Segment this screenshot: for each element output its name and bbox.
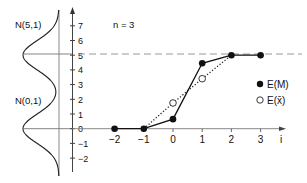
ex-point xyxy=(199,75,206,82)
em-point xyxy=(228,52,235,59)
x-tick-label: 2 xyxy=(229,134,235,145)
legend-em-label: E(M) xyxy=(267,79,289,90)
y-axis-arrow xyxy=(70,7,75,14)
y-tick-label: −2 xyxy=(78,154,88,164)
label-n51: N(5,1) xyxy=(15,19,41,30)
y-tick-label: 7 xyxy=(78,21,83,31)
y-tick-label: −1 xyxy=(78,139,88,149)
x-axis-label: i xyxy=(280,134,282,145)
legend-ex-marker xyxy=(257,97,263,103)
x-axis-arrow xyxy=(279,127,286,132)
em-point xyxy=(141,125,148,132)
y-tick-label: 1 xyxy=(78,110,83,120)
ex-point xyxy=(170,100,177,107)
y-tick-label: 3 xyxy=(78,80,83,90)
y-tick-label: 4 xyxy=(78,65,83,75)
label-n01: N(0,1) xyxy=(15,95,41,106)
y-tick-label: 2 xyxy=(78,95,83,105)
chart: 76543210−1−2 −2−10123 i n = 3 N(5,1) N(0… xyxy=(0,0,307,183)
em-point xyxy=(199,60,206,67)
em-point xyxy=(111,125,118,132)
y-tick-label: 6 xyxy=(78,36,83,46)
em-point xyxy=(257,52,264,59)
density-curve xyxy=(23,10,59,176)
em-point xyxy=(170,116,177,123)
n-annotation: n = 3 xyxy=(113,19,134,30)
x-tick-label: 3 xyxy=(258,134,264,145)
x-tick-label: 0 xyxy=(170,134,176,145)
series-em-line xyxy=(115,55,261,129)
y-tick-label: 5 xyxy=(78,51,83,61)
x-tick-label: 1 xyxy=(199,134,205,145)
x-tick-label: −1 xyxy=(138,134,150,145)
legend-ex-label: E(x̄) xyxy=(267,95,285,106)
x-tick-label: −2 xyxy=(109,134,121,145)
x-ticks: −2−10123 xyxy=(109,129,264,145)
legend-em-marker xyxy=(257,81,263,87)
